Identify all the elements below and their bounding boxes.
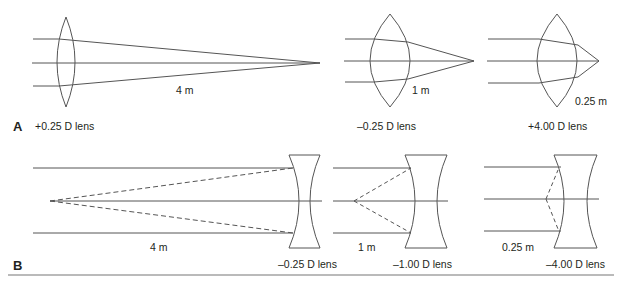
- lens-power-label-b3: –4.00 D lens: [546, 259, 605, 270]
- lens-power-label-b1: –0.25 D lens: [278, 259, 337, 270]
- lens-power-label-a3: +4.00 D lens: [528, 121, 587, 132]
- distance-label-a3: 0.25 m: [575, 96, 607, 107]
- rays-b2: [333, 168, 448, 233]
- rays-b3: [484, 167, 599, 231]
- distance-label-b2: 1 m: [358, 242, 376, 253]
- distance-label-b3: 0.25 m: [502, 242, 534, 253]
- distance-label-a2: 1 m: [412, 85, 430, 96]
- lens-power-label-b2: –1.00 D lens: [393, 259, 452, 270]
- panel-label-a: A: [13, 120, 22, 133]
- distance-label-a1: 4 m: [176, 85, 194, 96]
- rays-b1: [33, 168, 322, 233]
- rays-a1: [32, 39, 320, 86]
- distance-label-b1: 4 m: [150, 242, 168, 253]
- rays-a2: [344, 39, 474, 82]
- converging-lens-a1: [57, 17, 75, 107]
- lens-power-label-a1: +0.25 D lens: [35, 121, 94, 132]
- panel-label-b: B: [13, 259, 22, 272]
- rays-a3: [487, 39, 599, 83]
- diverging-lens-b3: [554, 155, 597, 248]
- lens-power-label-a2: –0.25 D lens: [357, 121, 416, 132]
